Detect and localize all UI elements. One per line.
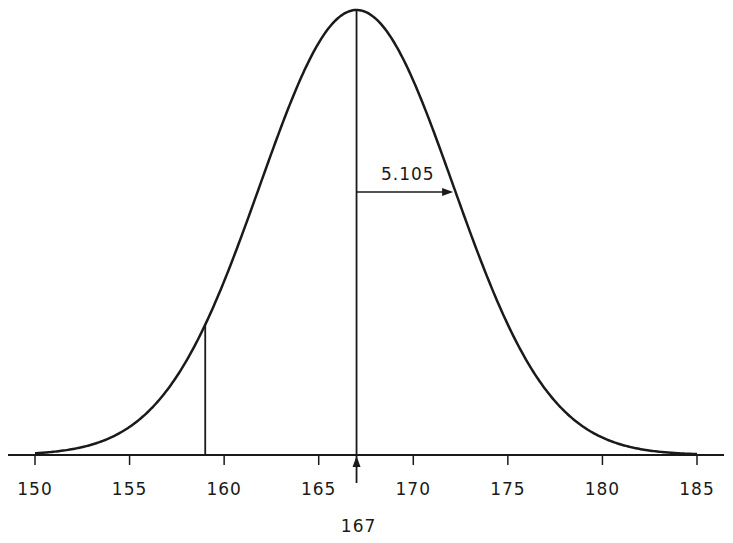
x-axis-tick-labels: 150155160165170175180185 bbox=[17, 479, 714, 499]
mean-label: 167 bbox=[341, 516, 376, 536]
x-axis-ticks bbox=[35, 455, 697, 465]
normal-distribution-chart: 150155160165170175180185 167 5.105 bbox=[0, 0, 733, 543]
normal-curve bbox=[35, 10, 697, 454]
x-tick-label: 160 bbox=[206, 479, 241, 499]
x-tick-label: 165 bbox=[301, 479, 336, 499]
std-dev-arrowhead-icon bbox=[442, 188, 453, 196]
x-tick-label: 155 bbox=[112, 479, 147, 499]
x-tick-label: 175 bbox=[490, 479, 525, 499]
x-tick-label: 150 bbox=[17, 479, 52, 499]
x-tick-label: 185 bbox=[679, 479, 714, 499]
std-dev-label: 5.105 bbox=[381, 164, 435, 184]
x-tick-label: 180 bbox=[585, 479, 620, 499]
x-tick-label: 170 bbox=[396, 479, 431, 499]
mean-arrow-icon bbox=[353, 456, 361, 467]
